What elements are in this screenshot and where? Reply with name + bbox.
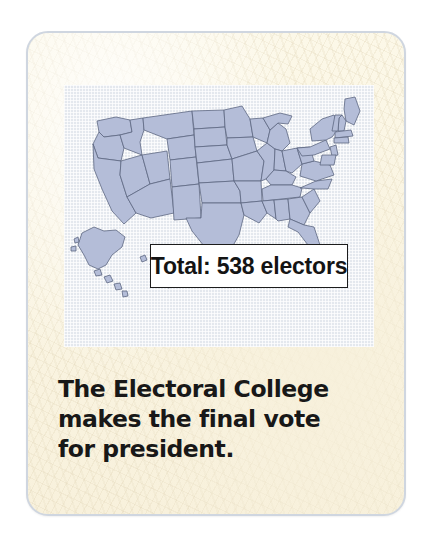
card-caption: The Electoral College makes the final vo… [58, 375, 378, 465]
contiguous-states [93, 97, 360, 265]
total-electors-text: Total: 538 electors [151, 253, 347, 280]
caption-line-1: The Electoral College [58, 375, 378, 405]
alaska [71, 227, 128, 297]
map-panel: Total: 538 electors [64, 85, 374, 347]
caption-line-3: for president. [58, 435, 378, 465]
caption-line-2: makes the final vote [58, 405, 378, 435]
flash-card: Total: 538 electors The Electoral Colleg… [26, 31, 406, 516]
us-states-map-graphic [64, 85, 374, 347]
total-electors-callout: Total: 538 electors [150, 244, 348, 288]
